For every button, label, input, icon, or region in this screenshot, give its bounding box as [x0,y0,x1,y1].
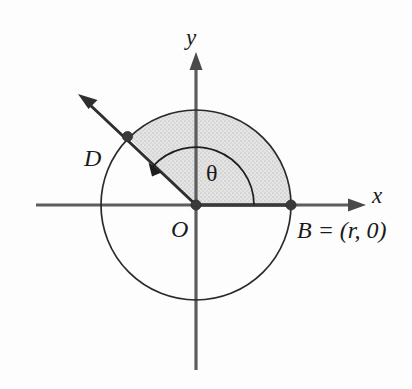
x-axis-label: x [371,183,383,208]
y-axis-label: y [184,25,197,50]
shaded-sector [129,110,291,205]
origin-label: O [171,216,188,242]
figure-container: y x O D B = (r, 0) θ [0,0,412,389]
point-d-label: D [83,145,101,171]
point-d-dot [122,131,132,141]
point-b-label: B = (r, 0) [297,217,387,243]
x-axis-arrowhead [348,199,366,212]
y-axis-arrowhead [190,52,203,70]
ray-od-arrowhead [78,94,98,109]
angle-theta-label: θ [206,160,218,186]
origin-dot [191,200,201,210]
circle-sector-diagram: y x O D B = (r, 0) θ [0,0,412,389]
point-b-dot [286,200,296,210]
